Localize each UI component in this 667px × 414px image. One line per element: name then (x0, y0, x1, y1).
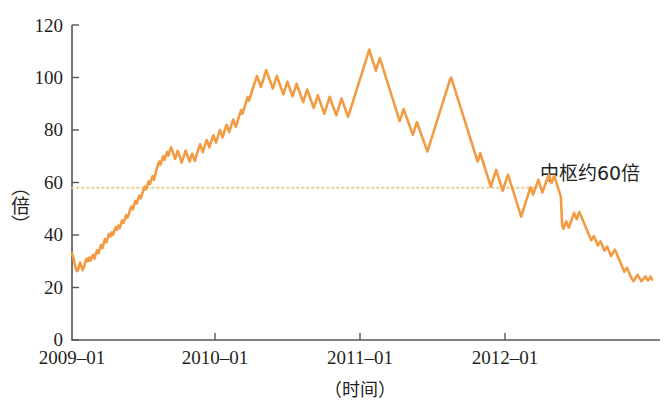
x-axis-tick-labels: 2009–01 2010–01 2011–01 2012–01 (39, 347, 539, 368)
chart-svg: 120 100 80 60 40 20 0 2009–01 2010–01 20… (0, 0, 667, 414)
x-tick-label: 2010–01 (182, 347, 249, 368)
x-tick-label: 2009–01 (39, 347, 106, 368)
y-tick-label: 40 (44, 224, 63, 245)
y-tick-label: 20 (44, 277, 63, 298)
y-axis-tick-labels: 120 100 80 60 40 20 0 (35, 15, 64, 350)
y-tick-label: 60 (44, 172, 63, 193)
y-tick-label: 120 (35, 15, 64, 36)
x-tick-label: 2011–01 (327, 347, 393, 368)
y-tick-label: 100 (35, 67, 64, 88)
y-tick-label: 80 (44, 119, 63, 140)
x-axis-title: （时间） (324, 379, 396, 400)
chart-container: 120 100 80 60 40 20 0 2009–01 2010–01 20… (0, 0, 667, 414)
x-tick-label: 2012–01 (472, 347, 539, 368)
